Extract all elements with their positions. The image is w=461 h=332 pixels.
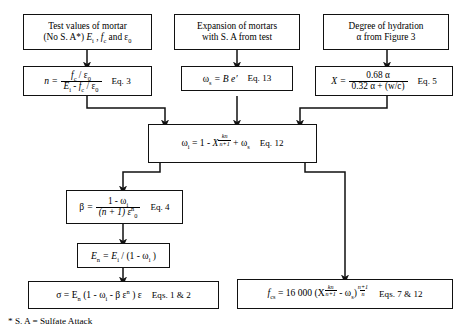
eq4-lhs: β bbox=[79, 201, 84, 212]
fcs-body: fcs = 16 000 (Xknn+1 - ωs)n+1n bbox=[267, 287, 369, 300]
node-en: En = Ei / (1 - ωi ) bbox=[77, 243, 170, 268]
eq5-equals: = bbox=[340, 75, 345, 86]
hydration-line1: Degree of hydration bbox=[349, 21, 424, 31]
node-test-values: Test values of mortar (No S. A*) Ei , fc… bbox=[23, 14, 152, 50]
node-eq4: β = 1 - ωi (n + 1) εn0 Eq. 4 bbox=[66, 190, 183, 224]
connector-eq12-to-fcs bbox=[305, 163, 345, 279]
expansion-line1: Expansion of mortars bbox=[197, 21, 277, 31]
node-sigma: σ = En (1 - ωi - β εn ) ε Eqs. 1 & 2 bbox=[28, 281, 219, 309]
node-fcs: fcs = 16 000 (Xknn+1 - ωs)n+1n Eqs. 7 & … bbox=[237, 279, 453, 309]
connector-eq5-to-eq12 bbox=[300, 96, 387, 124]
sigma-body: σ = En (1 - ωi - β εn ) ε bbox=[56, 289, 141, 300]
eq4-equals: = bbox=[87, 201, 92, 212]
connector-eq3-to-eq12 bbox=[87, 96, 165, 124]
en-body: En = Ei / (1 - ωi ) bbox=[91, 250, 156, 261]
eq5-fraction: 0.68 α 0.32 α + (w/c) bbox=[349, 71, 408, 92]
flowchart-diagram: Test values of mortar (No S. A*) Ei , fc… bbox=[0, 0, 461, 332]
node-eq12: ωi = 1 - Xknn+1 + ωs Eq. 12 bbox=[148, 124, 317, 163]
test-values-line1: Test values of mortar bbox=[48, 21, 127, 31]
node-eq5: X = 0.68 α 0.32 α + (w/c) Eq. 5 bbox=[315, 66, 453, 96]
eq12-tag: Eq. 12 bbox=[260, 138, 284, 149]
eq5-tag: Eq. 5 bbox=[418, 76, 437, 87]
hydration-line2: α from Figure 3 bbox=[357, 32, 416, 42]
eq12-body: ωi = 1 - Xknn+1 + ωs bbox=[182, 137, 250, 150]
eq4-fraction: 1 - ωi (n + 1) εn0 bbox=[96, 197, 141, 218]
eq13-tag: Eq. 13 bbox=[247, 73, 271, 84]
eq3-tag: Eq. 3 bbox=[112, 76, 131, 87]
fcs-tag: Eqs. 7 & 12 bbox=[379, 289, 422, 300]
footnote: * S. A = Sulfate Attack bbox=[8, 316, 92, 326]
expansion-line2: with S. A from test bbox=[202, 32, 272, 42]
node-expansion: Expansion of mortars with S. A from test bbox=[174, 14, 300, 50]
node-hydration: Degree of hydration α from Figure 3 bbox=[323, 14, 449, 50]
eq13-body: ωs = B e′ bbox=[203, 73, 238, 84]
node-eq13: ωs = B e′ Eq. 13 bbox=[181, 66, 293, 91]
eq4-tag: Eq. 4 bbox=[150, 202, 169, 213]
eq3-lhs: n bbox=[44, 75, 49, 86]
test-values-line2: (No S. A*) Ei , fc and ε0 bbox=[44, 32, 132, 42]
node-eq3: n = fc / ε0 Ei - fc / ε0 Eq. 3 bbox=[23, 66, 152, 96]
eq3-fraction: fc / ε0 Ei - fc / ε0 bbox=[61, 71, 102, 92]
eq3-equals: = bbox=[52, 75, 57, 86]
sigma-tag: Eqs. 1 & 2 bbox=[152, 290, 191, 301]
eq5-lhs: X bbox=[331, 75, 337, 86]
connector-eq12-to-eq4 bbox=[123, 163, 160, 190]
